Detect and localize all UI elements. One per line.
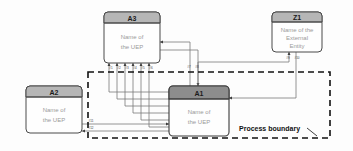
flow-label-a3-4: #4 [133,66,137,70]
process-boundary-leader [307,128,317,136]
flow-label-mid-7: #7 [187,65,191,69]
box-a3-body-line2: the UEP [121,44,143,50]
flow-label-a3-5: #5 [141,66,145,70]
box-z1[interactable]: Z1 Name of the External Entity [272,12,322,52]
box-z1-body-line2: External [286,35,308,41]
flow-label-a3-2: #2 [117,66,121,70]
process-boundary-label: Process boundary [239,125,300,133]
box-a3-body-line1: Name of [121,34,144,40]
box-z1-title: Z1 [293,14,301,21]
flow-label-a3-6: #6 [149,66,153,70]
box-a1-title: A1 [195,90,204,97]
flow-a3-to-a1-8 [160,50,198,86]
flow-label-mid-8: #8 [195,65,199,69]
box-a2-body-line1: Name of [43,107,66,113]
flow-label-z1-9: #9 [286,56,290,60]
box-z1-body-line3: Entity [289,43,304,49]
box-a1-body-line1: Name of [188,109,211,115]
box-a2[interactable]: A2 Name of the UEP [26,86,82,133]
diagram-canvas: Process boundary A3 Name of the UEP Z1 N… [0,0,353,151]
box-a3-title: A3 [128,15,137,22]
flow-label-a2-12: #12 [88,126,93,130]
flow-a1-to-a3-3 [125,63,169,106]
box-a2-body-line2: the UEP [43,117,65,123]
flow-a1-to-a3-7 [160,42,190,86]
flow-label-a2-11: #11 [89,119,94,123]
flow-a1-to-z1-9b [198,52,289,62]
box-a1-body-line2: the UEP [188,119,210,125]
flow-a1-to-a3-5 [141,63,169,120]
flow-label-z1-10: #10 [294,56,299,60]
flow-a1-to-a3-4 [133,63,169,113]
flow-label-a3-3: #3 [125,66,129,70]
flow-label-a3-1: #1 [109,66,113,70]
box-a3[interactable]: A3 Name of the UEP [104,12,160,63]
box-a1[interactable]: A1 Name of the UEP [169,86,229,136]
box-z1-body-line1: Name of the [281,27,314,33]
box-a2-title: A2 [50,89,59,96]
